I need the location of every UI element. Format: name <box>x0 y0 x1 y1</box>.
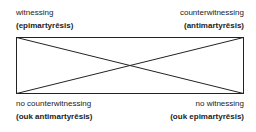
greek-antimartyresis: (antimartyrēsis) <box>180 21 244 31</box>
term-counterwitnessing: counterwitnessing <box>180 8 244 18</box>
term-no-counterwitnessing: no counterwitnessing <box>16 99 92 109</box>
corner-bottom-right: no witnessing (ouk epimartyrēsis) <box>170 99 244 122</box>
corner-top-right: counterwitnessing (antimartyrēsis) <box>180 8 244 31</box>
term-witnessing: witnessing <box>16 8 73 18</box>
term-no-witnessing: no witnessing <box>170 99 244 109</box>
greek-epimartyresis: (epimartyrēsis) <box>16 21 73 31</box>
corner-top-left: witnessing (epimartyrēsis) <box>16 8 73 31</box>
corner-bottom-left: no counterwitnessing (ouk antimartyrēsis… <box>16 99 92 122</box>
greek-ouk-epimartyresis: (ouk epimartyrēsis) <box>170 112 244 122</box>
greek-ouk-antimartyresis: (ouk antimartyrēsis) <box>16 112 92 122</box>
